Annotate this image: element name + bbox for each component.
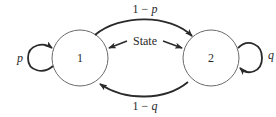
markov-diagram: 1 2 p q 1 − p 1 − q State <box>0 0 276 117</box>
svg-text:State: State <box>133 34 157 48</box>
state-annotation: State <box>109 34 182 48</box>
label-1-minus-p: 1 − p <box>133 2 158 16</box>
label-1-minus-q: 1 − q <box>133 99 158 113</box>
state-2: 2 <box>183 30 239 86</box>
transition-1-to-2: 1 − p <box>95 2 192 36</box>
svg-text:q: q <box>268 48 274 62</box>
svg-text:1: 1 <box>77 51 83 65</box>
transition-1-to-1: p <box>16 45 53 71</box>
transition-2-to-1: 1 − q <box>100 82 188 113</box>
svg-text:p: p <box>16 51 23 65</box>
transition-2-to-2: q <box>238 43 274 72</box>
svg-text:2: 2 <box>208 51 214 65</box>
state-1: 1 <box>52 30 108 86</box>
